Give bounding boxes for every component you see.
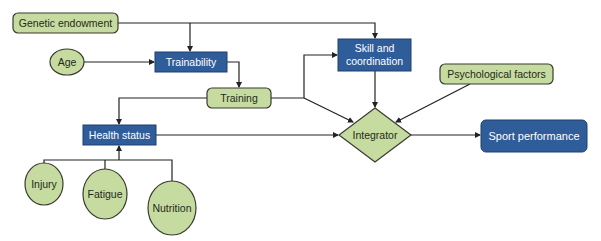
label: Nutrition (152, 202, 191, 214)
label: Trainability (166, 56, 217, 68)
edge-training-to-integrator (304, 98, 353, 122)
label: Fatigue (87, 188, 122, 200)
node-training: Training (207, 88, 271, 108)
edge-psych-to-integrator (396, 84, 470, 122)
node-genetic-endowment: Genetic endowment (13, 13, 118, 33)
node-injury: Injury (25, 163, 63, 205)
edge-training-to-skill (271, 55, 337, 98)
label: Training (220, 92, 258, 104)
label: Psychological factors (447, 68, 546, 80)
node-sport-performance: Sport performance (481, 120, 587, 152)
flow-diagram: Genetic endowment Age Trainability Train… (0, 0, 601, 241)
label: Health status (89, 129, 150, 141)
edge-trainability-to-training (227, 62, 239, 87)
label: Sport performance (488, 130, 579, 142)
node-integrator: Integrator (339, 108, 411, 162)
node-psychological-factors: Psychological factors (440, 64, 553, 84)
label: Injury (31, 178, 57, 190)
edge-genetic-to-skill (118, 23, 375, 38)
label: Integrator (353, 129, 398, 141)
node-nutrition: Nutrition (148, 181, 196, 235)
node-age: Age (50, 49, 84, 75)
label-line1: Skill and (355, 42, 395, 54)
label-line2: coordination (346, 55, 403, 67)
node-trainability: Trainability (155, 52, 227, 72)
label: Genetic endowment (19, 17, 112, 29)
edge-training-to-health (119, 98, 207, 124)
node-health-status: Health status (83, 125, 156, 145)
node-fatigue: Fatigue (83, 169, 127, 219)
label: Age (58, 56, 77, 68)
node-skill-coordination: Skill and coordination (338, 39, 411, 71)
